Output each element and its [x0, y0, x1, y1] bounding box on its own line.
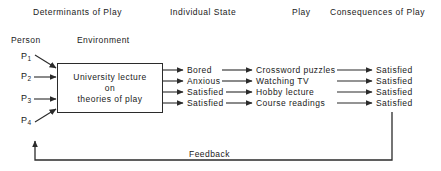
arrow-person-4 [35, 109, 56, 122]
connector-lines [0, 0, 441, 171]
arrow-person-1 [35, 55, 56, 68]
diagram-canvas: Determinants of Play Individual State Pl… [0, 0, 441, 171]
feedback-loop-path [35, 112, 392, 160]
